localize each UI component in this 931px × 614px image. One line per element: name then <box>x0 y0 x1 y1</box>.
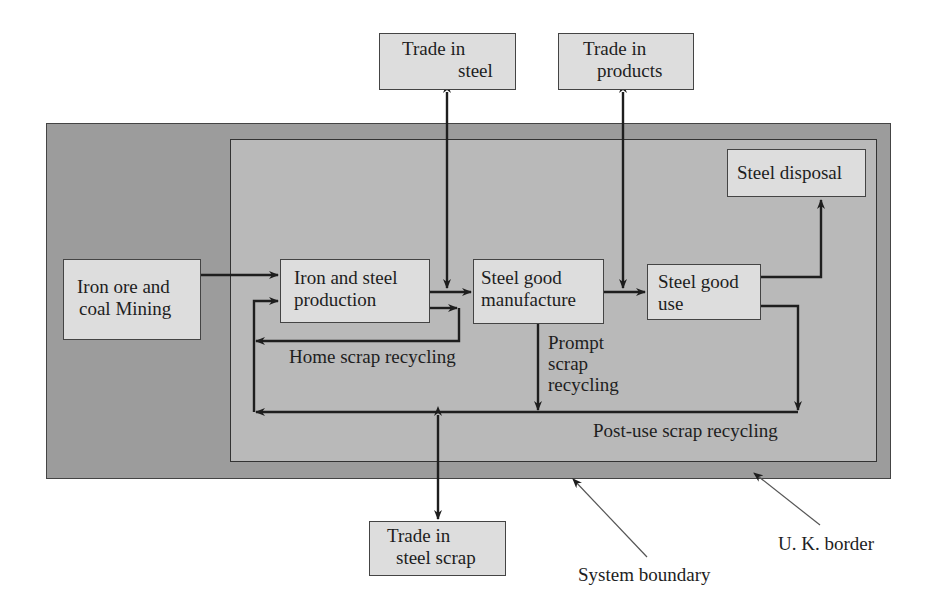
node-label: Iron ore and <box>77 276 200 298</box>
node-label: Iron and steel <box>294 267 429 289</box>
node-label: Steel disposal <box>737 162 865 184</box>
leader-system-boundary <box>573 479 647 557</box>
node-label: coal Mining <box>77 298 200 320</box>
arrow-use-to-disposal <box>761 200 821 277</box>
node-label: products <box>583 60 693 82</box>
node-label: Trade in <box>583 38 693 60</box>
label-system-boundary: System boundary <box>578 564 710 585</box>
node-iron-ore-mining: Iron ore and coal Mining <box>63 259 201 340</box>
node-label: production <box>294 289 429 311</box>
arrow-scrap-into-production <box>254 301 278 412</box>
node-iron-steel-production: Iron and steel production <box>280 259 430 323</box>
label-prompt-scrap-line3: recycling <box>548 374 619 395</box>
label-post-use-scrap-recycling: Post-use scrap recycling <box>593 420 778 441</box>
node-trade-in-steel: Trade in steel <box>379 33 516 90</box>
node-trade-in-steel-scrap: Trade in steel scrap <box>369 521 506 576</box>
arrow-post-use-scrap-down <box>761 306 798 410</box>
node-steel-good-manufacture: Steel good manufacture <box>473 259 604 324</box>
node-label: steel <box>402 60 515 82</box>
node-steel-disposal: Steel disposal <box>727 149 866 197</box>
node-label: steel scrap <box>387 547 505 569</box>
label-uk-border: U. K. border <box>778 533 874 554</box>
node-steel-good-use: Steel good use <box>647 264 761 320</box>
node-label: Steel good <box>658 271 760 293</box>
node-trade-in-products: Trade in products <box>558 33 694 90</box>
node-label: Steel good <box>481 267 603 289</box>
label-home-scrap-recycling: Home scrap recycling <box>289 346 456 367</box>
leader-uk-border <box>754 473 820 525</box>
node-label: use <box>658 293 760 315</box>
label-prompt-scrap-line2: scrap <box>548 353 588 374</box>
label-prompt-scrap-line1: Prompt <box>548 332 604 353</box>
node-label: manufacture <box>481 289 603 311</box>
node-label: Trade in <box>387 525 505 547</box>
node-label: Trade in <box>402 38 515 60</box>
